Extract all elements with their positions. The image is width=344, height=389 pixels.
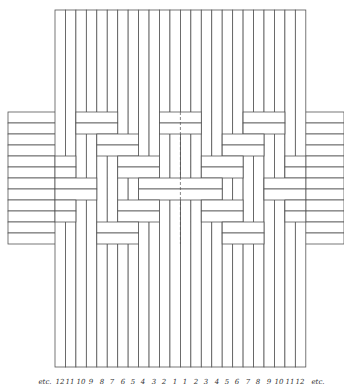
horizontal-strip-over-segment	[118, 167, 160, 178]
horizontal-strip-over-segment	[285, 200, 306, 211]
vertical-strip	[118, 10, 128, 367]
horizontal-strip-over-segment	[118, 211, 160, 222]
label-right-5: 5	[225, 378, 229, 386]
label-left-4: 4	[141, 378, 145, 386]
label-left-5: 5	[131, 378, 135, 386]
vertical-strip	[97, 10, 107, 367]
label-right-3: 3	[204, 378, 208, 386]
label-right-6: 6	[235, 378, 239, 386]
label-right-7: 7	[246, 378, 250, 386]
label-right-2: 2	[194, 378, 198, 386]
vertical-strip	[233, 10, 243, 367]
horizontal-strip-over-segment	[264, 178, 306, 189]
horizontal-strip-over-segment	[55, 167, 76, 178]
label-left-12: 12	[56, 378, 65, 386]
horizontal-strip-over-segment	[222, 222, 264, 233]
horizontal-strip-over-segment	[285, 211, 306, 222]
label-left-2: 2	[162, 378, 166, 386]
horizontal-strip-over-segment	[55, 211, 76, 222]
horizontal-strip-over-segment	[118, 156, 160, 167]
label-right-9: 9	[267, 378, 271, 386]
horizontal-strip-over-segment	[55, 200, 76, 211]
label-left-10: 10	[77, 378, 86, 386]
label-right-12: 12	[296, 378, 305, 386]
label-left-1: 1	[173, 378, 177, 386]
horizontal-strip-over-segment	[97, 222, 139, 233]
label-right-8: 8	[256, 378, 260, 386]
horizontal-strip-over-segment	[243, 123, 285, 134]
horizontal-strip-over-segment	[201, 156, 243, 167]
vertical-strip	[243, 10, 253, 367]
label-left-6: 6	[121, 378, 125, 386]
vertical-strip	[254, 10, 264, 367]
horizontal-strip-over-segment	[118, 200, 160, 211]
horizontal-strip-over-segment	[285, 156, 306, 167]
horizontal-strip-over-segment	[222, 233, 264, 244]
horizontal-strip-over-segment	[201, 211, 243, 222]
horizontal-strip-over-segment	[243, 112, 285, 123]
label-right-11: 11	[286, 378, 295, 386]
horizontal-strip-over-segment	[97, 233, 139, 244]
horizontal-strip-over-segment	[76, 112, 118, 123]
horizontal-strip-over-segment	[55, 156, 76, 167]
label-left-etc: etc.	[38, 378, 51, 386]
label-left-3: 3	[152, 378, 156, 386]
horizontal-strip-over-segment	[285, 167, 306, 178]
horizontal-strip-over-segment	[222, 134, 264, 145]
horizontal-strip-over-segment	[201, 167, 243, 178]
horizontal-strip-over-segment	[222, 145, 264, 156]
label-left-9: 9	[89, 378, 93, 386]
horizontal-strip-over-segment	[201, 200, 243, 211]
label-right-1: 1	[183, 378, 187, 386]
horizontal-strip-over-segment	[97, 145, 139, 156]
strip-number-labels: etc. 12 11 10 9 8 7 6 5 4 3 2 1 1 2 3 4 …	[0, 378, 344, 389]
vertical-strip	[107, 10, 117, 367]
label-right-10: 10	[275, 378, 284, 386]
horizontal-strip-over-segment	[55, 189, 97, 200]
label-right-4: 4	[215, 378, 219, 386]
label-right-etc: etc.	[311, 378, 324, 386]
label-left-11: 11	[66, 378, 75, 386]
label-left-7: 7	[110, 378, 114, 386]
horizontal-strip-over-segment	[264, 189, 306, 200]
weave-diagram	[0, 0, 344, 389]
horizontal-strip-over-segment	[97, 134, 139, 145]
horizontal-strip-over-segment	[55, 178, 97, 189]
vertical-strip	[222, 10, 232, 367]
label-left-8: 8	[100, 378, 104, 386]
vertical-strip	[128, 10, 138, 367]
horizontal-strip-over-segment	[76, 123, 118, 134]
